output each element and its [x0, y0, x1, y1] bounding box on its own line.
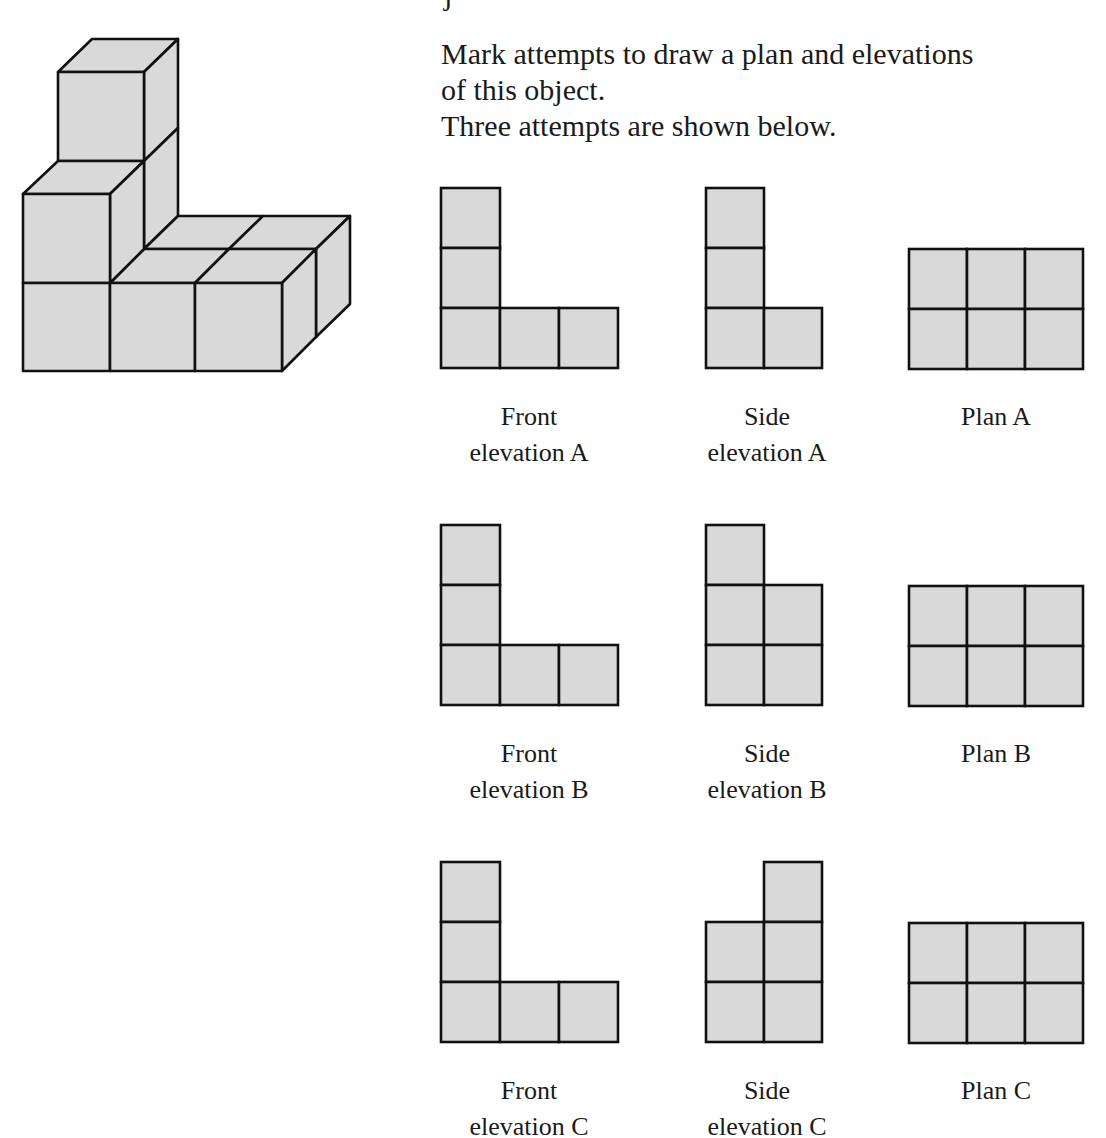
side-elevation-b-label: Sideelevation B: [667, 736, 867, 808]
cropped-text-fragment: j: [444, 0, 452, 12]
front-elevation-c: [439, 860, 620, 1044]
intro-line-2: of this object.: [441, 72, 1101, 108]
side-elevation-c: [704, 860, 824, 1044]
plan-b-label: Plan B: [896, 736, 1096, 772]
plan-b: [907, 584, 1085, 708]
side-elevation-c-label: Sideelevation C: [667, 1073, 867, 1138]
isometric-cube-object: [0, 0, 400, 400]
plan-a-label: Plan A: [896, 399, 1096, 435]
intro-line-1: Mark attempts to draw a plan and elevati…: [441, 36, 1101, 72]
front-elevation-a: [439, 186, 620, 370]
plan-c: [907, 921, 1085, 1045]
plan-c-label: Plan C: [896, 1073, 1096, 1109]
question-text: Mark attempts to draw a plan and elevati…: [441, 36, 1101, 144]
front-elevation-c-label: Frontelevation C: [429, 1073, 629, 1138]
front-elevation-a-label: Frontelevation A: [429, 399, 629, 471]
front-elevation-b-label: Frontelevation B: [429, 736, 629, 808]
side-elevation-a: [704, 186, 824, 370]
side-elevation-b: [704, 523, 824, 707]
intro-line-3: Three attempts are shown below.: [441, 108, 1101, 144]
side-elevation-a-label: Sideelevation A: [667, 399, 867, 471]
plan-a: [907, 247, 1085, 371]
front-elevation-b: [439, 523, 620, 707]
